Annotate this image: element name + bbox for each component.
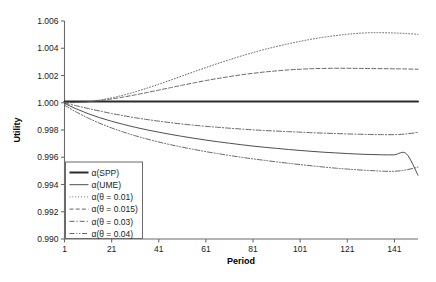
x-tick-label: 41 xyxy=(154,244,164,254)
legend-label-3: α(θ = 0.015) xyxy=(92,204,138,214)
data-series-group xyxy=(65,33,419,176)
x-tick-label: 101 xyxy=(293,244,307,254)
x-tick-label: 81 xyxy=(248,244,258,254)
y-tick-label: 1.004 xyxy=(37,43,59,53)
x-tick-label: 141 xyxy=(387,244,401,254)
legend-label-2: α(θ = 0.01) xyxy=(92,192,134,202)
x-tick-labels: 121416181101121141 xyxy=(62,244,402,254)
y-tick-label: 1.002 xyxy=(37,71,59,81)
x-tick-label: 121 xyxy=(340,244,354,254)
utility-period-line-chart: 1.0061.0041.0021.0000.9980.9960.9940.992… xyxy=(0,0,436,282)
x-tick-label: 21 xyxy=(107,244,117,254)
y-tick-label: 0.990 xyxy=(37,234,59,244)
y-axis-title: Utility xyxy=(12,117,22,142)
legend-label-5: α(θ = 0.04) xyxy=(92,229,134,239)
series-line-5 xyxy=(65,105,419,171)
legend-label-4: α(θ = 0.03) xyxy=(92,217,134,227)
y-tick-label: 0.992 xyxy=(37,207,59,217)
x-tick-label: 1 xyxy=(62,244,67,254)
y-tick-label: 0.994 xyxy=(37,180,59,190)
y-tick-label: 1.006 xyxy=(37,16,59,26)
legend-label-0: α(SPP) xyxy=(92,168,120,178)
chart-figure: 1.0061.0041.0021.0000.9980.9960.9940.992… xyxy=(0,0,436,282)
x-axis-title: Period xyxy=(227,256,255,266)
series-line-2 xyxy=(65,33,419,103)
y-tick-labels: 1.0061.0041.0021.0000.9980.9960.9940.992… xyxy=(37,16,59,244)
legend-box: α(SPP)α(UME)α(θ = 0.01)α(θ = 0.015)α(θ =… xyxy=(66,162,143,239)
y-tick-label: 0.998 xyxy=(37,125,59,135)
x-tick-label: 61 xyxy=(201,244,211,254)
y-tick-label: 0.996 xyxy=(37,152,59,162)
series-line-3 xyxy=(65,68,419,102)
y-tick-label: 1.000 xyxy=(37,98,59,108)
legend-label-1: α(UME) xyxy=(92,180,122,190)
